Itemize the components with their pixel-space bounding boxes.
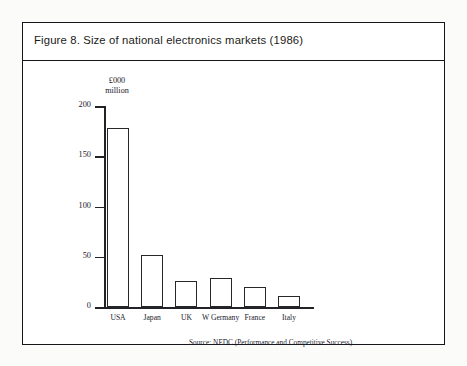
y-axis-tick-label: 0 xyxy=(87,301,91,310)
x-axis-label-uk: UK xyxy=(181,313,192,322)
figure-page: Figure 8. Size of national electronics m… xyxy=(0,0,467,366)
bars-layer xyxy=(104,106,314,307)
y-axis-tick: 50 xyxy=(95,257,104,259)
figure-title: Figure 8. Size of national electronics m… xyxy=(34,34,303,46)
x-axis-label-france: France xyxy=(244,313,265,322)
y-axis-unit-line-1: £000 xyxy=(91,76,143,86)
source-note: Source: NEDC (Performance and Competitiv… xyxy=(189,338,352,347)
bar-w-germany xyxy=(210,278,232,307)
y-axis-unit-line-2: million xyxy=(91,86,143,96)
figure-frame: Figure 8. Size of national electronics m… xyxy=(22,22,445,345)
y-axis-tick-label: 50 xyxy=(83,251,91,260)
x-axis-label-japan: Japan xyxy=(144,313,161,322)
x-axis-label-w-germany: W Germany xyxy=(202,313,239,322)
chart-plot-area: £000 million 050100150200 USAJapanUKW Ge… xyxy=(23,61,444,344)
figure-title-bar: Figure 8. Size of national electronics m… xyxy=(23,23,444,61)
bar-japan xyxy=(141,255,163,307)
y-axis-tick-label: 200 xyxy=(79,100,91,109)
bar-usa xyxy=(107,128,129,307)
bar-uk xyxy=(175,281,197,307)
y-axis-unit-label: £000 million xyxy=(91,76,143,95)
y-axis-tick: 200 xyxy=(95,106,104,108)
x-axis-label-italy: Italy xyxy=(282,313,296,322)
x-axis-label-usa: USA xyxy=(110,313,125,322)
y-axis-tick: 100 xyxy=(95,207,104,209)
bar-france xyxy=(244,287,266,307)
x-axis-line xyxy=(104,307,314,309)
y-axis-tick-label: 150 xyxy=(79,150,91,159)
bar-italy xyxy=(278,296,300,307)
y-axis-tick: 150 xyxy=(95,156,104,158)
y-axis-tick: 0 xyxy=(95,307,104,309)
y-axis-tick-label: 100 xyxy=(79,201,91,210)
